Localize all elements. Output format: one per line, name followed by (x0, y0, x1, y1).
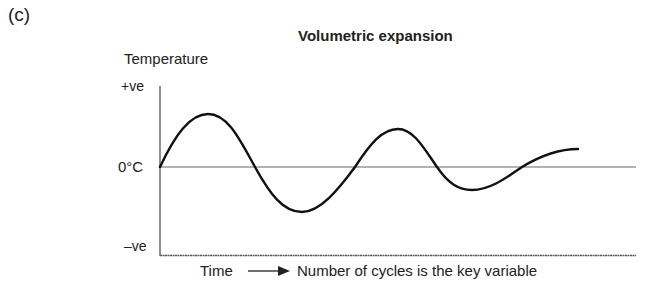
arrow-right-icon (248, 266, 290, 276)
chart-canvas (0, 0, 648, 284)
temperature-curve (160, 114, 578, 212)
